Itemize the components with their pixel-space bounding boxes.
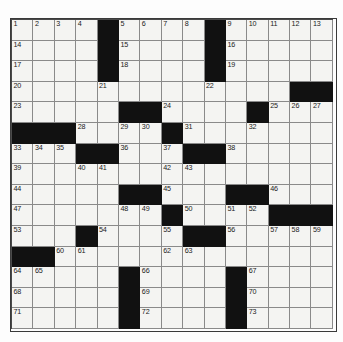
grid-letter-cell[interactable] <box>311 247 332 268</box>
grid-letter-cell[interactable] <box>290 41 311 62</box>
grid-letter-cell[interactable]: 44 <box>12 185 33 206</box>
grid-letter-cell[interactable] <box>205 185 226 206</box>
grid-letter-cell[interactable] <box>183 82 204 103</box>
grid-letter-cell[interactable] <box>205 123 226 144</box>
grid-letter-cell[interactable] <box>226 123 247 144</box>
grid-letter-cell[interactable] <box>55 308 76 329</box>
grid-letter-cell[interactable] <box>311 123 332 144</box>
grid-letter-cell[interactable]: 23 <box>12 102 33 123</box>
grid-letter-cell[interactable]: 26 <box>290 102 311 123</box>
grid-letter-cell[interactable] <box>76 102 97 123</box>
grid-letter-cell[interactable]: 12 <box>290 20 311 41</box>
grid-letter-cell[interactable] <box>311 185 332 206</box>
grid-letter-cell[interactable]: 47 <box>12 205 33 226</box>
grid-letter-cell[interactable] <box>290 247 311 268</box>
grid-letter-cell[interactable]: 60 <box>55 247 76 268</box>
grid-letter-cell[interactable] <box>162 308 183 329</box>
grid-letter-cell[interactable] <box>290 308 311 329</box>
grid-letter-cell[interactable] <box>162 61 183 82</box>
grid-letter-cell[interactable] <box>269 288 290 309</box>
grid-letter-cell[interactable] <box>76 267 97 288</box>
grid-letter-cell[interactable] <box>98 102 119 123</box>
grid-letter-cell[interactable] <box>55 185 76 206</box>
grid-letter-cell[interactable] <box>247 41 268 62</box>
grid-letter-cell[interactable] <box>33 82 54 103</box>
grid-letter-cell[interactable]: 69 <box>140 288 161 309</box>
grid-letter-cell[interactable] <box>205 267 226 288</box>
grid-letter-cell[interactable] <box>183 185 204 206</box>
grid-letter-cell[interactable] <box>290 267 311 288</box>
grid-letter-cell[interactable]: 72 <box>140 308 161 329</box>
crossword-grid[interactable]: 1234567891011121314151617181920212223242… <box>11 19 333 329</box>
grid-letter-cell[interactable] <box>33 288 54 309</box>
grid-letter-cell[interactable] <box>76 308 97 329</box>
grid-letter-cell[interactable]: 40 <box>76 164 97 185</box>
grid-letter-cell[interactable] <box>140 144 161 165</box>
grid-letter-cell[interactable] <box>205 288 226 309</box>
grid-letter-cell[interactable]: 66 <box>140 267 161 288</box>
grid-letter-cell[interactable]: 49 <box>140 205 161 226</box>
grid-letter-cell[interactable] <box>247 247 268 268</box>
grid-letter-cell[interactable] <box>162 267 183 288</box>
grid-letter-cell[interactable]: 42 <box>162 164 183 185</box>
grid-letter-cell[interactable] <box>98 288 119 309</box>
grid-letter-cell[interactable] <box>269 61 290 82</box>
grid-letter-cell[interactable] <box>311 144 332 165</box>
grid-letter-cell[interactable] <box>290 144 311 165</box>
grid-letter-cell[interactable]: 29 <box>119 123 140 144</box>
grid-letter-cell[interactable] <box>269 247 290 268</box>
grid-letter-cell[interactable]: 22 <box>205 82 226 103</box>
grid-letter-cell[interactable]: 5 <box>119 20 140 41</box>
grid-letter-cell[interactable]: 48 <box>119 205 140 226</box>
grid-letter-cell[interactable] <box>183 41 204 62</box>
grid-letter-cell[interactable] <box>269 82 290 103</box>
grid-letter-cell[interactable] <box>33 102 54 123</box>
grid-letter-cell[interactable] <box>33 61 54 82</box>
grid-letter-cell[interactable] <box>55 226 76 247</box>
grid-letter-cell[interactable]: 52 <box>247 205 268 226</box>
grid-letter-cell[interactable]: 31 <box>183 123 204 144</box>
grid-letter-cell[interactable] <box>311 267 332 288</box>
grid-letter-cell[interactable]: 46 <box>269 185 290 206</box>
grid-letter-cell[interactable]: 71 <box>12 308 33 329</box>
grid-letter-cell[interactable] <box>55 205 76 226</box>
grid-letter-cell[interactable]: 67 <box>247 267 268 288</box>
grid-letter-cell[interactable]: 15 <box>119 41 140 62</box>
grid-letter-cell[interactable]: 24 <box>162 102 183 123</box>
grid-letter-cell[interactable] <box>140 82 161 103</box>
grid-letter-cell[interactable]: 55 <box>162 226 183 247</box>
grid-letter-cell[interactable]: 3 <box>55 20 76 41</box>
grid-letter-cell[interactable] <box>311 288 332 309</box>
grid-letter-cell[interactable] <box>311 41 332 62</box>
grid-letter-cell[interactable]: 43 <box>183 164 204 185</box>
grid-letter-cell[interactable] <box>205 308 226 329</box>
grid-letter-cell[interactable]: 21 <box>98 82 119 103</box>
grid-letter-cell[interactable] <box>140 247 161 268</box>
grid-letter-cell[interactable]: 57 <box>269 226 290 247</box>
grid-letter-cell[interactable] <box>290 61 311 82</box>
grid-letter-cell[interactable] <box>247 82 268 103</box>
grid-letter-cell[interactable]: 70 <box>247 288 268 309</box>
grid-letter-cell[interactable] <box>183 61 204 82</box>
grid-letter-cell[interactable]: 64 <box>12 267 33 288</box>
grid-letter-cell[interactable] <box>55 41 76 62</box>
grid-letter-cell[interactable] <box>269 123 290 144</box>
grid-letter-cell[interactable]: 17 <box>12 61 33 82</box>
grid-letter-cell[interactable] <box>311 61 332 82</box>
grid-letter-cell[interactable] <box>205 247 226 268</box>
grid-letter-cell[interactable]: 1 <box>12 20 33 41</box>
grid-letter-cell[interactable]: 13 <box>311 20 332 41</box>
grid-letter-cell[interactable] <box>119 164 140 185</box>
grid-letter-cell[interactable] <box>183 288 204 309</box>
grid-letter-cell[interactable] <box>140 61 161 82</box>
grid-letter-cell[interactable] <box>140 226 161 247</box>
grid-letter-cell[interactable] <box>55 267 76 288</box>
grid-letter-cell[interactable]: 10 <box>247 20 268 41</box>
grid-letter-cell[interactable] <box>226 102 247 123</box>
grid-letter-cell[interactable]: 6 <box>140 20 161 41</box>
grid-letter-cell[interactable]: 35 <box>55 144 76 165</box>
grid-letter-cell[interactable]: 27 <box>311 102 332 123</box>
grid-letter-cell[interactable] <box>33 185 54 206</box>
grid-letter-cell[interactable] <box>98 308 119 329</box>
grid-letter-cell[interactable]: 53 <box>12 226 33 247</box>
